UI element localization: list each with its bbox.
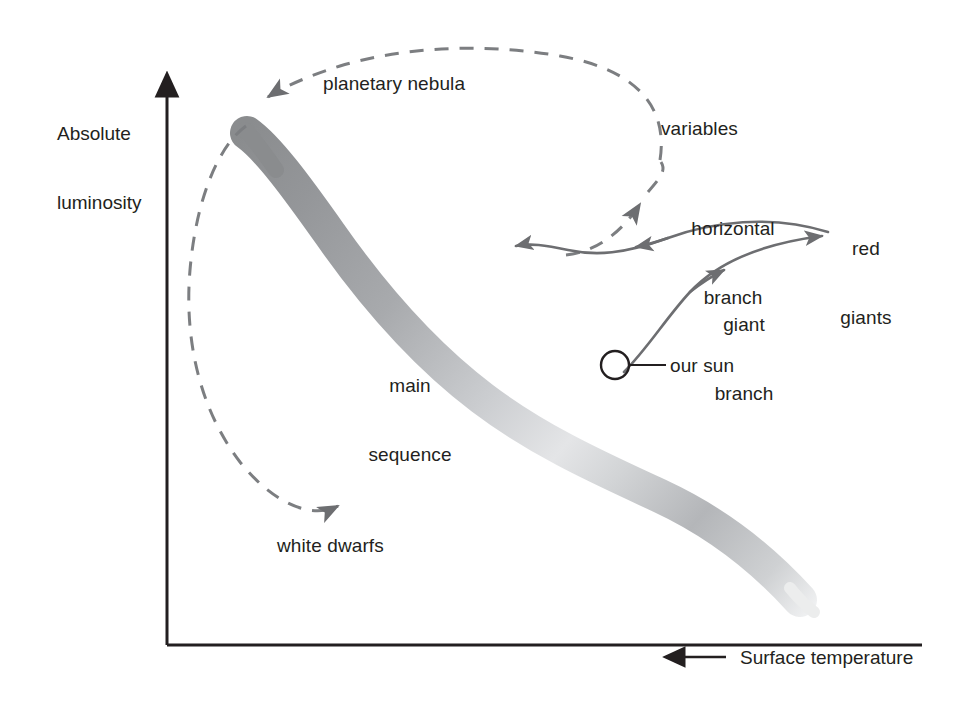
label-horizontal-branch-line1: horizontal [668,217,798,240]
variables-arc-upper [648,162,663,192]
label-red-giants-line2: giants [811,306,921,329]
label-red-giants: red giants [811,191,921,375]
label-our-sun: our sun [670,354,734,377]
label-giant-branch-line2: branch [689,382,799,405]
label-white-dwarfs: white dwarfs [277,534,384,557]
y-axis-label-line2: luminosity [57,191,141,214]
label-giant-branch-line1: giant [689,313,799,336]
label-main-sequence-line1: main [345,374,475,397]
variables-arc [566,204,640,255]
label-main-sequence-line2: sequence [345,443,475,466]
hr-diagram: Absolute luminosity Surface temperature … [0,0,963,706]
label-red-giants-line1: red [811,237,921,260]
our-sun-marker-group [601,351,666,379]
our-sun-circle [601,351,629,379]
label-main-sequence: main sequence [345,328,475,512]
y-axis-label: Absolute luminosity [57,76,141,260]
label-planetary-nebula: planetary nebula [323,72,465,95]
y-axis-label-line1: Absolute [57,122,141,145]
planetary-nebula-arc [268,48,661,160]
x-axis-label: Surface temperature [740,646,913,669]
label-variables: variables [661,117,738,140]
